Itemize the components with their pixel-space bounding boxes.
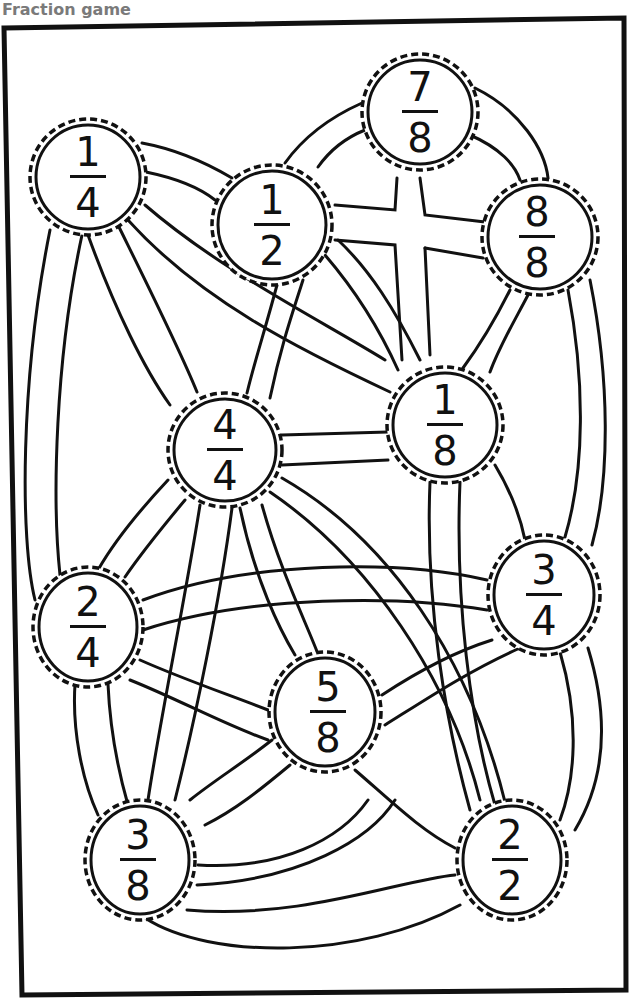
fraction-5-8[interactable]: 58 [288, 665, 368, 760]
fraction-1-8[interactable]: 18 [405, 378, 485, 473]
fraction-bar [310, 710, 346, 713]
denominator: 8 [288, 716, 368, 760]
numerator: 1 [232, 178, 312, 222]
denominator: 2 [232, 229, 312, 273]
fraction-bar [526, 593, 562, 596]
fraction-4-4[interactable]: 44 [185, 403, 265, 498]
denominator: 8 [497, 241, 577, 285]
numerator: 7 [380, 65, 460, 109]
denominator: 4 [504, 599, 584, 643]
numerator: 1 [405, 378, 485, 422]
fraction-8-8[interactable]: 88 [497, 190, 577, 285]
numerator: 4 [185, 403, 265, 447]
numerator: 3 [504, 548, 584, 592]
fraction-bar [402, 110, 438, 113]
denominator: 8 [405, 429, 485, 473]
denominator: 4 [48, 631, 128, 675]
numerator: 2 [470, 813, 550, 857]
numerator: 1 [48, 130, 128, 174]
numerator: 3 [98, 813, 178, 857]
fraction-3-4[interactable]: 34 [504, 548, 584, 643]
fraction-1-4[interactable]: 14 [48, 130, 128, 225]
fraction-bar [70, 625, 106, 628]
denominator: 4 [48, 181, 128, 225]
fraction-bar [70, 175, 106, 178]
denominator: 8 [380, 116, 460, 160]
fraction-1-2[interactable]: 12 [232, 178, 312, 273]
numerator: 5 [288, 665, 368, 709]
denominator: 4 [185, 454, 265, 498]
fraction-bar [492, 858, 528, 861]
fraction-bar [519, 235, 555, 238]
denominator: 2 [470, 864, 550, 908]
fraction-2-4[interactable]: 24 [48, 580, 128, 675]
denominator: 8 [98, 864, 178, 908]
fraction-2-2[interactable]: 22 [470, 813, 550, 908]
fraction-7-8[interactable]: 78 [380, 65, 460, 160]
fraction-bar [120, 858, 156, 861]
numerator: 2 [48, 580, 128, 624]
fraction-bar [207, 448, 243, 451]
numerator: 8 [497, 190, 577, 234]
fraction-bar [427, 423, 463, 426]
fraction-3-8[interactable]: 38 [98, 813, 178, 908]
fraction-bar [254, 223, 290, 226]
